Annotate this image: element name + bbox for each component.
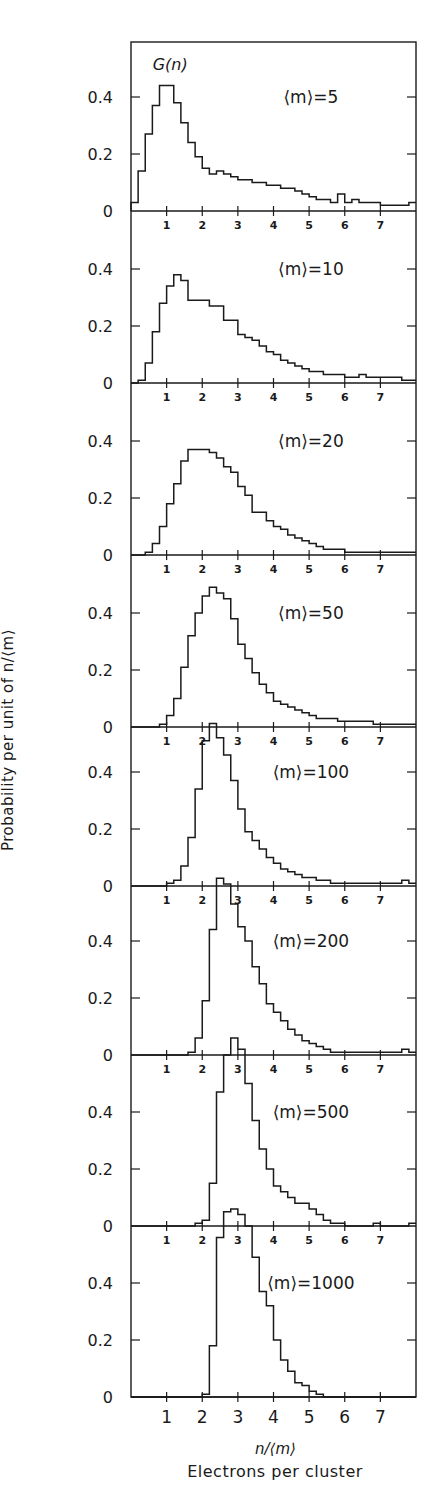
x-tick-label: 7 <box>377 894 385 907</box>
x-tick-label: 5 <box>305 1063 313 1076</box>
x-tick-label: 6 <box>341 1063 349 1076</box>
y-tick-label: 0.4 <box>88 432 113 451</box>
y-tick-label: 0.2 <box>88 820 113 839</box>
y-tick-label: 0 <box>103 202 113 221</box>
x-tick-label: 3 <box>234 391 242 404</box>
histogram-steps <box>131 86 416 211</box>
x-tick-label: 2 <box>198 894 206 907</box>
x-tick-label: 5 <box>304 1407 315 1427</box>
x-tick-label: 4 <box>270 391 278 404</box>
x-tick-label: 6 <box>341 391 349 404</box>
x-tick-label: 1 <box>161 1407 172 1427</box>
x-tick-label: 6 <box>341 1234 349 1247</box>
y-tick-label: 0 <box>103 718 113 737</box>
panel-label: ⟨m⟩=1000 <box>267 1273 354 1293</box>
y-tick-label: 0 <box>103 1217 113 1236</box>
x-tick-label: 2 <box>198 1063 206 1076</box>
x-tick-label: 4 <box>270 735 278 748</box>
panel-mean-10 <box>131 269 416 388</box>
x-tick-label: 6 <box>341 735 349 748</box>
x-tick-label: 2 <box>198 563 206 576</box>
histogram-figure: 123456700.20.4⟨m⟩=5123456700.20.4⟨m⟩=101… <box>0 0 439 1505</box>
y-tick-label: 0 <box>103 374 113 393</box>
x-tick-label: 6 <box>341 219 349 232</box>
y-tick-label: 0 <box>103 877 113 896</box>
histogram-steps <box>131 450 416 555</box>
y-tick-label: 0 <box>103 1046 113 1065</box>
x-tick-label: 5 <box>305 219 313 232</box>
x-axis-label: n/⟨m⟩ <box>133 1440 418 1458</box>
panel-mean-5 <box>131 86 416 216</box>
y-tick-label: 0 <box>103 1388 113 1407</box>
x-tick-label: 3 <box>234 735 242 748</box>
x-tick-label: 4 <box>270 894 278 907</box>
x-tick-label: 4 <box>268 1407 279 1427</box>
x-tick-label: 1 <box>163 894 171 907</box>
x-tick-label: 5 <box>305 894 313 907</box>
x-tick-label: 5 <box>305 735 313 748</box>
x-tick-label: 2 <box>198 391 206 404</box>
x-tick-label: 4 <box>270 1063 278 1076</box>
x-tick-label: 3 <box>234 563 242 576</box>
panel-label: ⟨m⟩=500 <box>273 1102 350 1122</box>
panel-label: ⟨m⟩=200 <box>273 931 350 951</box>
y-tick-label: 0.2 <box>88 1160 113 1179</box>
x-tick-label: 1 <box>163 563 171 576</box>
y-axis-label-text: Probability per unit of n/⟨m⟩ <box>0 629 17 851</box>
x-tick-label: 3 <box>232 1407 243 1427</box>
y-tick-label: 0.4 <box>88 604 113 623</box>
x-tick-label: 5 <box>305 1234 313 1247</box>
x-tick-label: 3 <box>234 1234 242 1247</box>
x-tick-label: 1 <box>163 219 171 232</box>
x-tick-label: 1 <box>163 1063 171 1076</box>
y-tick-label: 0.4 <box>88 1274 113 1293</box>
y-tick-label: 0.4 <box>88 1103 113 1122</box>
x-axis-label-secondary: Electrons per cluster <box>100 1462 439 1481</box>
x-tick-label: 1 <box>163 735 171 748</box>
panel-mean-20 <box>131 441 416 560</box>
y-tick-label: 0.2 <box>88 989 113 1008</box>
panel-mean-50 <box>131 587 416 732</box>
y-tick-label: 0.2 <box>88 1331 113 1350</box>
x-tick-label: 2 <box>198 219 206 232</box>
x-tick-label: 7 <box>377 1234 385 1247</box>
y-tick-label: 0.4 <box>88 932 113 951</box>
x-tick-label: 7 <box>377 1063 385 1076</box>
x-tick-label: 4 <box>270 1234 278 1247</box>
y-tick-label: 0 <box>103 546 113 565</box>
histogram-steps <box>131 587 416 727</box>
y-tick-label: 0.2 <box>88 317 113 336</box>
plot-frame <box>131 42 416 1397</box>
y-tick-label: 0.2 <box>88 145 113 164</box>
y-tick-label: 0.4 <box>88 260 113 279</box>
x-tick-label: 6 <box>339 1407 350 1427</box>
panel-label: ⟨m⟩=100 <box>273 762 350 782</box>
x-tick-label: 3 <box>234 1063 242 1076</box>
x-tick-label: 7 <box>377 735 385 748</box>
x-tick-label: 7 <box>377 219 385 232</box>
x-tick-label: 2 <box>198 1234 206 1247</box>
x-tick-label: 1 <box>163 1234 171 1247</box>
x-tick-label: 7 <box>377 563 385 576</box>
panel-label: ⟨m⟩=20 <box>278 431 344 451</box>
panel-mean-100 <box>131 724 416 891</box>
y-tick-label: 0.2 <box>88 489 113 508</box>
y-tick-label: 0.4 <box>88 88 113 107</box>
y-tick-label: 0.2 <box>88 661 113 680</box>
x-tick-label: 3 <box>234 219 242 232</box>
x-tick-label: 7 <box>375 1407 386 1427</box>
panel-label: ⟨m⟩=50 <box>278 603 344 623</box>
x-tick-label: 4 <box>270 219 278 232</box>
curve-label: G(n) <box>153 55 188 74</box>
histogram-steps <box>131 275 416 383</box>
x-tick-label: 6 <box>341 894 349 907</box>
x-tick-label: 4 <box>270 563 278 576</box>
y-tick-label: 0.4 <box>88 763 113 782</box>
panel-label: ⟨m⟩=5 <box>283 87 338 107</box>
x-tick-label: 1 <box>163 391 171 404</box>
x-tick-label: 5 <box>305 391 313 404</box>
panel-label: ⟨m⟩=10 <box>278 259 344 279</box>
x-tick-label: 5 <box>305 563 313 576</box>
x-tick-label: 6 <box>341 563 349 576</box>
x-tick-label: 7 <box>377 391 385 404</box>
